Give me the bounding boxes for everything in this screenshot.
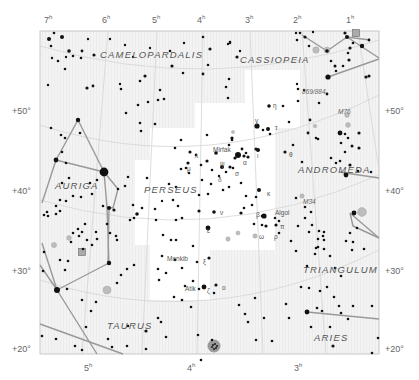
star	[300, 286, 303, 289]
star	[271, 340, 274, 343]
star-label: σ	[235, 170, 239, 177]
star	[64, 68, 67, 71]
star	[262, 129, 265, 132]
star	[310, 211, 313, 214]
star	[175, 219, 178, 222]
star	[261, 215, 264, 218]
star	[100, 168, 109, 177]
dec-axis-label: +40°	[12, 186, 31, 196]
star	[53, 32, 56, 35]
star	[210, 183, 213, 186]
star	[177, 205, 180, 208]
star	[180, 139, 183, 142]
star	[206, 134, 209, 137]
star	[160, 321, 163, 324]
star	[364, 75, 367, 78]
star	[245, 195, 248, 198]
star	[207, 193, 210, 196]
star	[222, 189, 225, 192]
star	[254, 123, 259, 128]
star	[282, 105, 285, 108]
star	[326, 93, 329, 96]
star	[50, 45, 53, 48]
star	[304, 217, 307, 220]
star	[170, 239, 173, 242]
star	[78, 235, 81, 238]
star	[154, 208, 157, 211]
star	[339, 160, 342, 163]
star-label: Algol	[275, 209, 289, 216]
star	[147, 101, 150, 104]
star	[331, 344, 334, 347]
star-label: Mirfak	[213, 146, 231, 153]
star	[95, 301, 98, 304]
star	[363, 248, 366, 251]
star	[316, 307, 319, 310]
star	[68, 177, 71, 180]
star	[182, 72, 185, 75]
star-label: κ	[267, 190, 270, 197]
star	[233, 156, 236, 159]
star	[305, 310, 310, 315]
star	[371, 305, 374, 308]
star	[352, 42, 355, 45]
star	[109, 232, 112, 235]
star	[257, 188, 261, 192]
dec-axis-label: +50°	[385, 106, 404, 116]
star	[197, 334, 200, 337]
star	[120, 88, 123, 91]
star	[333, 296, 336, 299]
star	[241, 148, 244, 151]
star	[228, 165, 231, 168]
star	[274, 217, 277, 220]
star	[159, 89, 162, 92]
star	[72, 195, 75, 198]
star	[50, 127, 53, 130]
star	[267, 104, 271, 108]
star	[263, 317, 266, 320]
star	[107, 206, 111, 210]
star	[145, 348, 148, 351]
galaxy-marker	[103, 286, 111, 294]
star	[170, 64, 173, 67]
star	[70, 241, 73, 244]
star	[368, 39, 371, 42]
star-label: ψ	[220, 160, 225, 167]
star	[74, 345, 77, 348]
star-label: ξ	[203, 258, 206, 265]
star-label: ζ	[207, 287, 210, 294]
star-label: ρ	[274, 233, 278, 240]
star	[213, 292, 216, 295]
star	[174, 147, 177, 150]
star	[155, 219, 158, 222]
star	[371, 352, 374, 355]
star	[243, 207, 246, 210]
star	[340, 312, 343, 315]
star-label: Menkib	[167, 255, 188, 262]
star	[135, 212, 139, 216]
star	[157, 317, 160, 320]
star	[190, 306, 193, 309]
star	[42, 270, 45, 273]
star	[77, 228, 80, 231]
star	[326, 286, 329, 289]
star	[205, 159, 208, 162]
star	[157, 268, 160, 271]
star	[126, 345, 129, 348]
galaxy-marker	[313, 47, 319, 53]
constellation-name: PERSEUS	[144, 184, 198, 195]
star	[65, 200, 68, 203]
star	[347, 58, 350, 61]
star	[198, 194, 201, 197]
star	[330, 60, 333, 63]
star	[296, 83, 298, 85]
star-label: β	[256, 211, 260, 218]
star	[238, 304, 241, 307]
star	[66, 288, 69, 291]
star	[239, 211, 242, 214]
star	[65, 56, 67, 58]
star	[309, 119, 312, 122]
ra-axis-label: 1h	[346, 14, 354, 25]
star	[340, 142, 343, 145]
star	[80, 57, 83, 60]
